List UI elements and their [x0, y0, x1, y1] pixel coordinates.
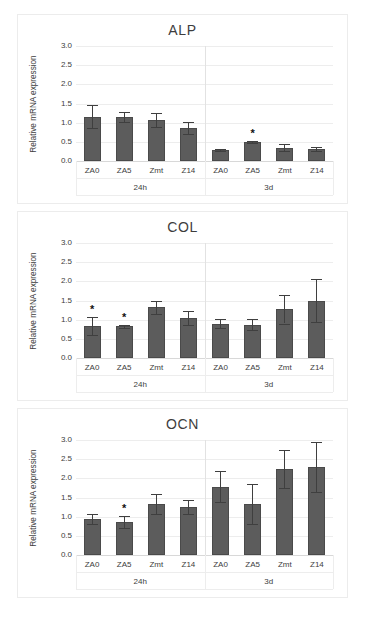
error-bar-cap-top — [311, 442, 322, 443]
bar-slot — [76, 46, 108, 161]
bar[interactable] — [116, 117, 133, 161]
error-bar-cap-bottom — [119, 122, 130, 123]
bar-series: * — [76, 440, 333, 555]
error-bar-cap-bottom — [183, 325, 194, 326]
bar-slot — [269, 46, 301, 161]
y-tick-label: 2.0 — [61, 277, 72, 285]
y-tick-label: 2.0 — [61, 474, 72, 482]
error-bar — [284, 450, 285, 488]
group-label: 3d — [205, 181, 334, 194]
error-bar — [156, 113, 157, 128]
error-bar-cap-top — [215, 319, 226, 320]
x-tick-label: Zmt — [269, 558, 301, 571]
bar-slot — [140, 243, 172, 358]
error-bar-cap-top — [87, 105, 98, 106]
chart-panel-list: ALPRelative mRNA expression3.02.52.01.51… — [17, 14, 348, 605]
bar-slot — [172, 243, 204, 358]
y-axis-label: Relative mRNA expression — [26, 440, 40, 555]
bar-slot: * — [108, 243, 140, 358]
y-axis-label-text: Relative mRNA expression — [26, 440, 40, 555]
error-bar — [284, 144, 285, 151]
x-tick-label: ZA0 — [76, 558, 108, 571]
x-tick-label: ZA5 — [237, 558, 269, 571]
bar-slot: * — [108, 440, 140, 555]
significance-marker: * — [251, 128, 255, 139]
error-bar — [124, 112, 125, 122]
error-bar-cap-bottom — [119, 328, 130, 329]
y-tick-label: 2.5 — [61, 61, 72, 69]
error-bar-cap-top — [247, 141, 258, 142]
axis-frame-vline — [333, 555, 334, 589]
y-tick-label: 3.0 — [61, 436, 72, 444]
significance-marker: * — [122, 503, 126, 514]
y-tick-label: 0.5 — [61, 335, 72, 343]
error-bar-cap-top — [151, 113, 162, 114]
y-tick-label: 0.5 — [61, 138, 72, 146]
bar-slot — [140, 46, 172, 161]
significance-marker: * — [90, 304, 94, 315]
error-bar-cap-bottom — [183, 134, 194, 135]
x-tick-label: ZA5 — [108, 361, 140, 374]
error-bar-cap-bottom — [183, 514, 194, 515]
bar-series: ** — [76, 243, 333, 358]
error-bar-cap-bottom — [87, 128, 98, 129]
error-bar-cap-top — [119, 325, 130, 326]
error-bar-cap-top — [183, 500, 194, 501]
error-bar — [156, 494, 157, 514]
x-tick-label: Z14 — [172, 164, 204, 177]
y-axis-label: Relative mRNA expression — [26, 243, 40, 358]
y-tick-label: 1.5 — [61, 297, 72, 305]
group-labels: 24h3d — [76, 378, 333, 391]
error-bar-cap-bottom — [279, 488, 290, 489]
plot-area: 3.02.52.01.51.00.50.0* — [76, 440, 333, 555]
axis-frame-vline — [333, 161, 334, 195]
error-bar — [252, 484, 253, 524]
axis-frame-line — [76, 392, 333, 393]
x-tick-label: Z14 — [301, 164, 333, 177]
error-bar-cap-top — [87, 514, 98, 515]
bar-slot: * — [76, 243, 108, 358]
error-bar — [156, 301, 157, 315]
y-tick-label: 1.5 — [61, 100, 72, 108]
bar-slot — [205, 243, 237, 358]
error-bar-cap-top — [119, 516, 130, 517]
error-bar — [92, 317, 93, 335]
x-tick-label: Z14 — [301, 361, 333, 374]
error-bar-cap-top — [279, 450, 290, 451]
error-bar — [220, 471, 221, 502]
bar[interactable] — [244, 142, 261, 161]
error-bar-cap-bottom — [215, 328, 226, 329]
error-bar-cap-top — [119, 112, 130, 113]
bar-slot — [269, 440, 301, 555]
error-bar-cap-top — [247, 484, 258, 485]
x-tick-label: Zmt — [269, 164, 301, 177]
y-tick-label: 3.0 — [61, 239, 72, 247]
x-tick-label: Zmt — [140, 558, 172, 571]
x-tick-label: ZA5 — [108, 164, 140, 177]
chart-panel-col: COLRelative mRNA expression3.02.52.01.51… — [17, 211, 348, 401]
x-tick-label: Z14 — [301, 558, 333, 571]
error-bar — [124, 516, 125, 528]
error-bar-cap-top — [215, 471, 226, 472]
bar-slot — [205, 440, 237, 555]
y-axis-label-text: Relative mRNA expression — [26, 243, 40, 358]
bar-series: * — [76, 46, 333, 161]
error-bar — [92, 514, 93, 524]
bar-slot — [205, 46, 237, 161]
bar-slot — [172, 46, 204, 161]
error-bar-cap-top — [151, 494, 162, 495]
error-bar-cap-top — [87, 317, 98, 318]
error-bar-cap-bottom — [311, 151, 322, 152]
error-bar-cap-bottom — [279, 151, 290, 152]
x-tick-labels: ZA0ZA5ZmtZ14ZA0ZA5ZmtZ14 — [76, 361, 333, 374]
chart-panel-alp: ALPRelative mRNA expression3.02.52.01.51… — [17, 14, 348, 204]
chart-title: ALP — [18, 22, 347, 38]
y-tick-label: 1.0 — [61, 316, 72, 324]
bar-slot — [301, 440, 333, 555]
chart-title: OCN — [18, 416, 347, 432]
error-bar — [188, 311, 189, 325]
error-bar — [188, 500, 189, 515]
bar-slot — [269, 243, 301, 358]
bar[interactable] — [116, 326, 133, 358]
error-bar — [188, 122, 189, 134]
